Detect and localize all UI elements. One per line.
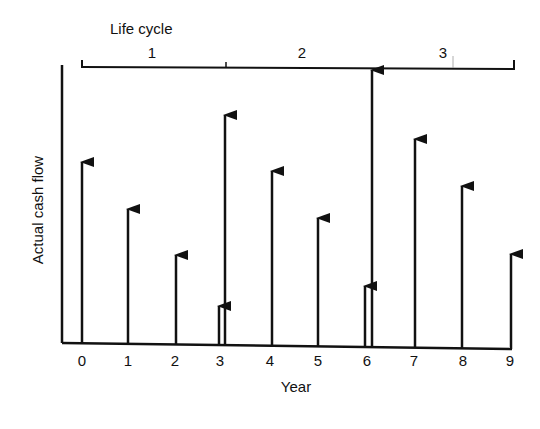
x-tick-6: 6 [363,352,371,369]
x-tick-7: 7 [410,352,418,369]
cycle-label-1: 1 [148,44,156,61]
life-cycle-title: Life cycle [110,20,173,37]
x-axis-label: Year [281,378,311,395]
x-tick-3: 3 [216,352,224,369]
cycle-label-2: 2 [298,44,306,61]
x-tick-1: 1 [124,352,132,369]
y-axis-label: Actual cash flow [29,156,46,264]
x-tick-2: 2 [171,352,179,369]
x-tick-9: 9 [506,352,514,369]
cycle-label-3: 3 [439,44,447,61]
x-tick-4: 4 [266,352,274,369]
x-tick-8: 8 [459,352,467,369]
x-tick-0: 0 [78,352,86,369]
cash-flow-arrows [82,70,511,349]
x-tick-5: 5 [314,352,322,369]
x-axis [62,343,512,349]
